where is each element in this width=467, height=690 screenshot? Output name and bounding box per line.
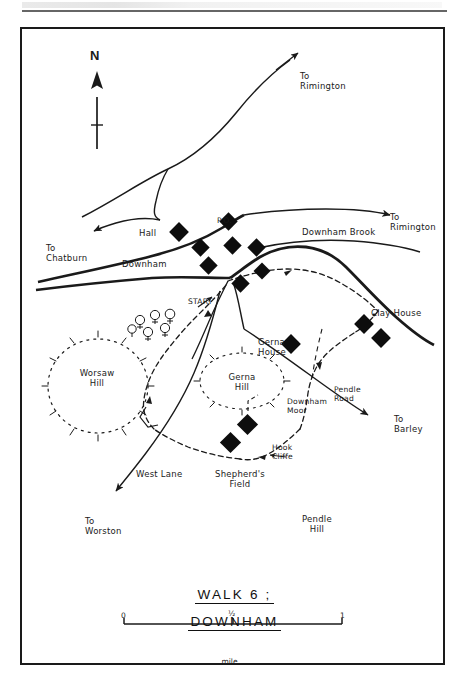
label-west-lane: West Lane: [136, 469, 182, 479]
label-gerna-house: Gerna House: [258, 337, 286, 357]
shepherds-field-buildings: [220, 414, 258, 453]
tree-icon: [165, 309, 175, 324]
label-pendle-road: Pendle Road: [334, 385, 361, 403]
label-post-office: P.O.: [217, 216, 232, 225]
map-title-line-1: WALK 6 ;: [195, 587, 273, 604]
scale-label-mid: ½: [228, 609, 235, 618]
label-hook-cliffe: Hook Cliffe: [272, 443, 293, 461]
tree-icon: [128, 325, 136, 337]
north-label: N: [90, 51, 100, 61]
tree-icon: [160, 323, 169, 337]
road-east-to-rimington: [244, 209, 390, 215]
lane-village-north: [154, 169, 168, 220]
scan-header-smudge: [22, 2, 442, 8]
label-downham: Downham: [122, 259, 167, 269]
tree-icon: [143, 327, 152, 341]
lane-start-south: [192, 281, 228, 359]
footpath-spur-kink: [140, 407, 158, 427]
downham-brook-stream: [258, 240, 420, 252]
scan-header-rule: [22, 10, 447, 12]
scale-label-start: 0: [121, 611, 126, 620]
trees-cluster: [128, 309, 175, 341]
main-street-west-heavy: [36, 277, 230, 290]
label-pendle-hill: Pendle Hill: [290, 514, 344, 534]
label-downham-brook: Downham Brook: [302, 227, 375, 237]
footpath-route: [143, 269, 378, 460]
label-to-barley: To Barley: [394, 414, 423, 434]
label-clay-house: Clay House: [371, 308, 421, 318]
road-junction-to-barley-heavy: [230, 246, 434, 345]
page-canvas: N To Rimington To Rimington To Chatburn …: [0, 0, 467, 690]
road-chatburn-rimington: [82, 53, 298, 217]
scale-label-end: 1: [340, 611, 345, 620]
label-hall: Hall: [139, 228, 156, 238]
tree-icon: [150, 310, 159, 324]
north-arrow-glyph: [91, 71, 103, 149]
label-gerna-hill: Gerna Hill: [214, 372, 270, 392]
clay-house-buildings: [354, 314, 391, 348]
map-drawing: [22, 29, 447, 667]
scale-unit-label: mile: [17, 657, 442, 666]
label-shepherds-field: Shepherd's Field: [204, 469, 276, 489]
tree-icon: [135, 315, 144, 329]
label-start: START: [188, 297, 213, 306]
lane-junction-southeast: [234, 285, 244, 329]
label-worsaw-hill: Worsaw Hill: [54, 368, 140, 388]
label-to-rimington-east: To Rimington: [390, 212, 436, 232]
label-to-worston: To Worston: [85, 516, 122, 536]
label-to-rimington-north: To Rimington: [300, 71, 346, 91]
moor-boundary: [312, 329, 322, 379]
label-to-chatburn: To Chatburn: [46, 243, 87, 263]
shepherds-field-link: [248, 395, 258, 411]
label-downham-moor: Downham Moor: [287, 397, 327, 415]
map-frame: N To Rimington To Rimington To Chatburn …: [20, 27, 445, 665]
